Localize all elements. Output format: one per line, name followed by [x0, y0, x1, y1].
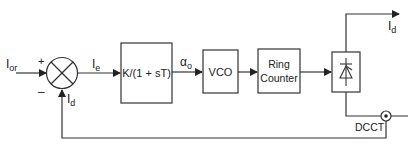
- error-label: Ie: [92, 57, 100, 73]
- dcct-label: DCCT: [355, 121, 385, 133]
- dcct-sensor: [381, 111, 391, 121]
- controller-label: K/(1 + sT): [122, 67, 171, 79]
- output-current-label: Id: [388, 19, 396, 35]
- ring-counter-label-line1: Ring: [268, 58, 290, 70]
- vco-label: VCO: [209, 66, 233, 78]
- rectifier-block: [332, 52, 360, 92]
- ring-counter-label-line2: Counter: [260, 72, 298, 84]
- return-line: [346, 92, 408, 116]
- firing-angle-label: αo: [180, 55, 192, 71]
- ring-counter-block: [258, 49, 300, 93]
- reference-label: Ior: [6, 57, 17, 73]
- plus-sign: +: [38, 55, 44, 67]
- summing-junction: [47, 58, 78, 89]
- feedback-label: Id: [67, 92, 75, 108]
- block-diagram: Ior + – Ie K/(1 + sT) αo VCO Ring Counte…: [0, 0, 408, 149]
- minus-sign: –: [38, 85, 45, 99]
- feedback-line: [62, 90, 386, 138]
